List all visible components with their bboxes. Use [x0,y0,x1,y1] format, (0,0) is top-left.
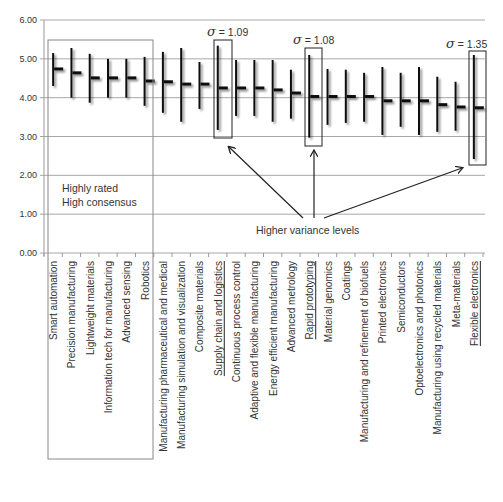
error-bar [456,82,466,131]
mean-marker [274,88,283,91]
error-bar [309,55,319,138]
error-bar [108,59,118,98]
error-bar [236,60,246,116]
highlight-label-line2: High consensus [62,196,137,208]
mean-marker [420,99,429,102]
y-tick-label: 1.00 [19,209,37,219]
error-bar [382,67,392,135]
category-label: Optoelectronics and photonics [414,261,425,396]
mean-marker [127,76,136,79]
sigma-label: σ = 1.08 [293,32,334,47]
error-bar [71,48,81,98]
category-label: Semiconductors [396,261,407,333]
error-bar [126,59,136,98]
y-tick-label: 0.00 [19,248,37,258]
mean-marker [329,95,338,98]
error-bar [218,46,228,130]
category-label: Advanced sensing [121,261,132,343]
mean-marker [457,105,466,108]
mean-marker [438,103,447,106]
mean-marker [72,71,81,74]
category-label: Manufacturing and refinement of biofuels [359,261,370,442]
mean-marker [292,92,301,95]
error-bar [346,70,356,123]
y-tick-label: 3.00 [19,132,37,142]
mean-marker [475,106,484,109]
x-axis: Smart automationPrecision manufacturingL… [44,253,483,452]
sigma-value: = 1.09 [216,26,249,38]
gridlines [40,20,485,253]
sigma-value: = 1.08 [302,34,335,46]
category-label: Rapid prototyping [304,261,315,339]
error-bar [401,73,411,127]
error-bar-chart: 0.001.002.003.004.005.006.00 Smart autom… [0,0,503,502]
error-bars [53,46,484,159]
sigma-label: σ = 1.35 [446,36,487,51]
y-tick-label: 6.00 [19,15,37,25]
category-label: Smart automation [48,261,59,340]
category-label: Meta-materials [451,261,462,327]
error-bar [419,67,429,135]
error-bar [273,60,283,122]
mean-marker [402,99,411,102]
error-bar [328,69,338,125]
variance-note: Higher variance levels [256,224,359,236]
error-bar [474,55,484,159]
category-label: Composite materials [194,261,205,352]
category-label: Manufacturing pharmaceutical and medical [158,261,169,452]
highlight-label-line1: Highly rated [62,182,118,194]
mean-marker [200,83,209,86]
sigma-value: = 1.35 [455,38,488,50]
category-label: Energy efficient manufacturing [268,261,279,396]
mean-marker [219,86,228,89]
category-label: Printed electronics [377,261,388,343]
error-bar [437,77,447,132]
error-bar [364,73,374,122]
category-label: Adaptive and flexible manufacturing [249,261,260,419]
category-label: Manufacturing simulation and visualizati… [176,261,187,449]
mean-marker [91,76,100,79]
category-label: Lightweight materials [85,261,96,355]
mean-marker [109,76,118,79]
highlight-group-box [48,40,153,459]
y-tick-label: 5.00 [19,54,37,64]
error-bar [199,62,209,109]
category-label: Continuous process control [231,261,242,382]
mean-marker [365,95,374,98]
error-bar [90,54,100,103]
error-bar [254,60,264,116]
category-label: Precision manufacturing [66,261,77,368]
category-label: Advanced metrology [286,261,297,352]
error-bar [163,52,173,113]
mean-marker [164,80,173,83]
mean-marker [182,83,191,86]
mean-marker [383,99,392,102]
error-bar [291,70,301,119]
mean-marker [310,95,319,98]
category-label: Coatings [341,261,352,300]
mean-marker [54,67,63,70]
category-label: Information tech for manufacturing [103,261,114,413]
arrow-to-supply-chain [229,147,303,218]
category-label: Supply chain and logistics [213,261,224,376]
error-bar [53,53,63,86]
mean-marker [237,86,246,89]
category-label: Material genomics [323,261,334,342]
y-tick-label: 4.00 [19,93,37,103]
y-tick-label: 2.00 [19,170,37,180]
category-label: Manufacturing using recycled materials [432,261,443,434]
mean-marker [347,95,356,98]
mean-marker [255,86,264,89]
category-label: Robotics [140,261,151,300]
sigma-label: σ = 1.09 [207,24,248,39]
category-label: Flexible electronics [469,261,480,346]
